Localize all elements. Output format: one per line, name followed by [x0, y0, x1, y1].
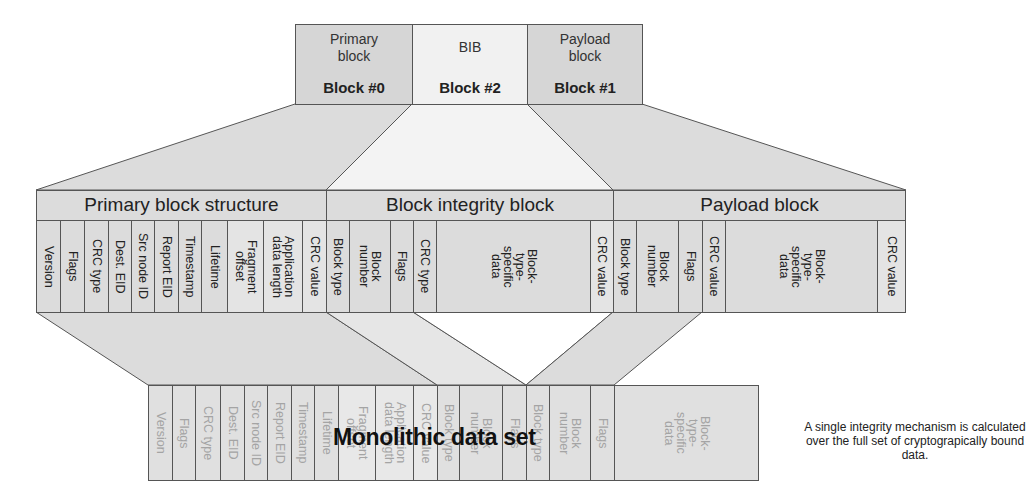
top-block-label: BIB: [413, 39, 527, 56]
mono-cell: Src node ID: [244, 385, 268, 481]
mono-field-label: Dest. EID: [227, 406, 239, 460]
field-cell: Application data length: [263, 220, 303, 313]
mono-field-label: Block- type- specific data: [663, 412, 711, 454]
field-label: Report EID: [161, 236, 173, 298]
mono-field-label: Report EID: [274, 402, 286, 464]
payload-structure-header: Payload block: [613, 190, 906, 221]
bib-structure-header: Block integrity block: [326, 190, 614, 221]
top-block-number: Block #1: [528, 79, 642, 96]
top-block-primary: Primary block Block #0: [295, 24, 413, 105]
mono-cell: Dest. EID: [220, 385, 245, 481]
field-cell: Block- type- specific data: [436, 220, 591, 313]
field-cell: Lifetime: [201, 220, 228, 313]
field-cell: Block type: [326, 220, 350, 313]
mono-cell: Block number: [549, 385, 591, 481]
mono-cell: Report EID: [267, 385, 292, 481]
field-cell: CRC type: [413, 220, 437, 313]
monolithic-data-set-label: Monolithic data set: [333, 424, 536, 451]
mono-cell: Block- type- specific data: [614, 385, 759, 481]
mono-cell: Flags: [172, 385, 196, 481]
field-label: Src node ID: [137, 233, 149, 299]
field-cell: Block number: [636, 220, 679, 313]
field-label: Flags: [67, 251, 79, 282]
top-block-label: Primary block: [296, 31, 412, 65]
field-cell: CRC type: [84, 220, 109, 313]
mono-field-label: Flags: [597, 418, 609, 449]
mono-field-label: Timestamp: [297, 402, 309, 463]
top-block-number: Block #2: [413, 79, 527, 96]
field-label: Version: [43, 246, 55, 288]
field-cell: Timestamp: [178, 220, 202, 313]
mono-cell: Timestamp: [291, 385, 315, 481]
field-label: Block number: [646, 245, 670, 287]
field-label: Block number: [358, 245, 382, 287]
mono-field-label: Version: [155, 412, 167, 454]
field-label: Block type: [619, 238, 631, 296]
field-cell: CRC value: [590, 220, 614, 313]
field-cell: Flags: [678, 220, 703, 313]
field-cell: Report EID: [154, 220, 179, 313]
field-label: CRC value: [596, 236, 608, 296]
field-cell: Block type: [613, 220, 637, 313]
field-cell: CRC value: [877, 220, 906, 313]
field-label: Block- type- specific data: [778, 246, 826, 288]
mono-field-label: Lifetime: [321, 411, 333, 455]
field-cell: Block number: [349, 220, 391, 313]
mono-cell: Version: [148, 385, 173, 481]
mono-field-label: Block number: [558, 412, 582, 454]
mono-field-label: Flags: [178, 418, 190, 449]
field-cell: CRC value: [302, 220, 327, 313]
field-cell: Flags: [60, 220, 85, 313]
field-label: Lifetime: [209, 245, 221, 289]
field-label: CRC value: [886, 236, 898, 296]
field-cell: Fragment offset: [227, 220, 264, 313]
field-label: Fragment offset: [234, 240, 258, 294]
field-cell: Version: [36, 220, 61, 313]
field-label: CRC type: [91, 239, 103, 293]
mono-cell: Flags: [590, 385, 615, 481]
mono-field-label: CRC type: [202, 406, 214, 460]
field-cell: Block- type- specific data: [725, 220, 878, 313]
field-cell: Src node ID: [131, 220, 155, 313]
field-cell: Flags: [390, 220, 414, 313]
top-block-number: Block #0: [296, 79, 412, 96]
field-label: Block type: [332, 238, 344, 296]
field-label: CRC type: [419, 239, 431, 293]
mono-cell: CRC type: [195, 385, 221, 481]
top-block-payload: Payload block Block #1: [527, 24, 643, 105]
field-label: Flags: [685, 251, 697, 282]
field-label: Timestamp: [184, 236, 196, 297]
mono-field-label: Src node ID: [250, 400, 262, 466]
field-cell: CRC value: [702, 220, 726, 313]
field-label: Dest. EID: [114, 240, 126, 294]
integrity-note: A single integrity mechanism is calculat…: [800, 420, 1030, 462]
primary-structure-header: Primary block structure: [36, 190, 327, 221]
top-block-label: Payload block: [528, 31, 642, 65]
top-block-bib: BIB Block #2: [412, 24, 528, 105]
field-label: Application data length: [271, 236, 295, 298]
field-label: Block- type- specific data: [490, 246, 538, 288]
field-label: CRC value: [309, 236, 321, 296]
field-label: CRC value: [708, 236, 720, 296]
field-cell: Dest. EID: [108, 220, 132, 313]
field-label: Flags: [396, 251, 408, 282]
